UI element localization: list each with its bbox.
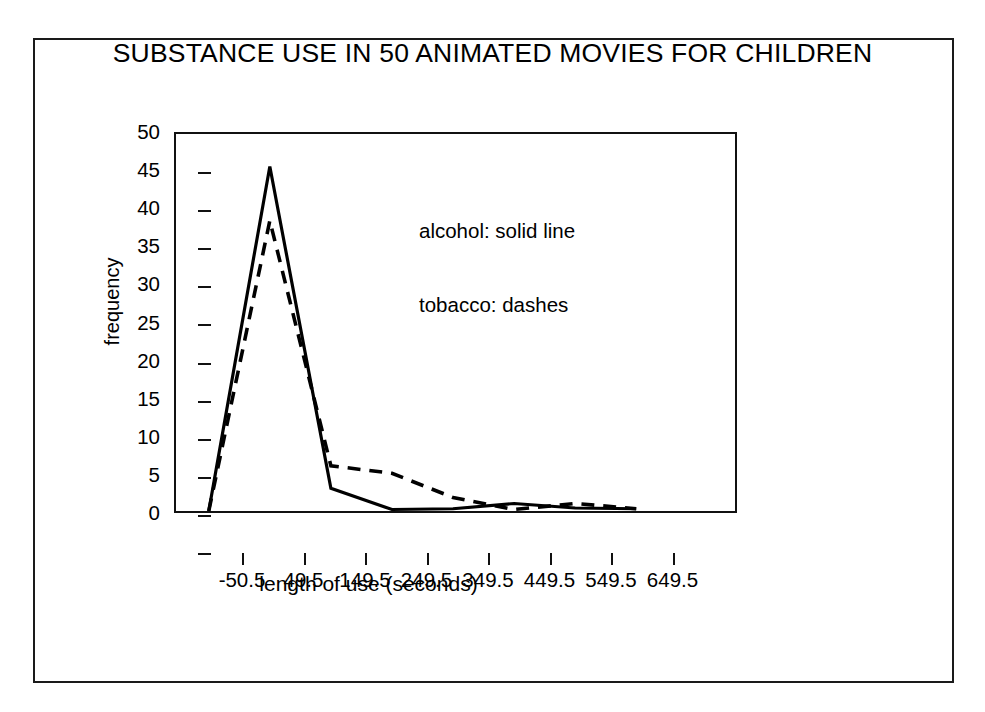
y-tick-label: 30 — [137, 274, 160, 295]
y-tick-label: 10 — [137, 427, 160, 448]
y-tick-label: 40 — [137, 198, 160, 219]
x-tick-mark — [427, 553, 429, 565]
y-tick-label: 50 — [137, 122, 160, 143]
y-tick-label: 35 — [137, 236, 160, 257]
legend-entry-tobacco: tobacco: dashes — [419, 293, 568, 317]
plot-series-svg — [176, 134, 735, 511]
y-tick-label: 5 — [149, 465, 160, 486]
y-tick-mark — [198, 515, 211, 517]
y-tick-label: 20 — [137, 351, 160, 372]
x-tick-mark — [611, 553, 613, 565]
series-line-tobacco — [209, 221, 636, 511]
y-tick-mark — [198, 553, 211, 555]
plot-area — [174, 132, 737, 513]
x-tick-mark — [304, 553, 306, 565]
x-tick-mark — [488, 553, 490, 565]
x-axis-label: length of use (seconds) — [0, 572, 737, 596]
y-tick-label: 15 — [137, 389, 160, 410]
y-tick-label: 25 — [137, 313, 160, 334]
x-tick-mark — [242, 553, 244, 565]
x-tick-mark — [673, 553, 675, 565]
x-tick-mark — [550, 553, 552, 565]
legend-entry-alcohol: alcohol: solid line — [419, 219, 575, 243]
y-axis-tick-labels: 50454035302520151050 — [118, 132, 160, 513]
y-tick-label: 0 — [149, 503, 160, 524]
y-tick-label: 45 — [137, 160, 160, 181]
x-tick-mark — [365, 553, 367, 565]
chart-title: SUBSTANCE USE IN 50 ANIMATED MOVIES FOR … — [0, 38, 985, 69]
